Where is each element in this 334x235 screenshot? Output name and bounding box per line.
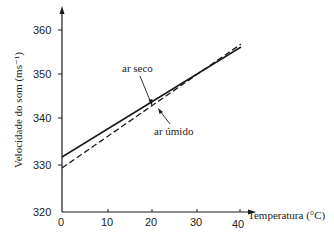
annotation-arrow-ar-umido bbox=[160, 111, 170, 124]
chart: 360 350 340 330 320 0 10 20 30 40 Temper… bbox=[0, 0, 334, 235]
y-tick-label: 340 bbox=[33, 112, 51, 124]
x-tick-label: 10 bbox=[101, 216, 113, 228]
y-axis-arrow-icon bbox=[60, 6, 65, 14]
annotation-ar-seco: ar seco bbox=[122, 62, 153, 74]
arrowhead-icon bbox=[149, 99, 153, 106]
x-tick-label: 0 bbox=[58, 216, 64, 228]
x-tick-label: 20 bbox=[145, 216, 157, 228]
y-tick-label: 320 bbox=[33, 206, 51, 218]
annotation-arrow-ar-seco bbox=[140, 76, 151, 103]
y-tick-label: 360 bbox=[33, 24, 51, 36]
y-axis-title: Velocidade do som (ms⁻¹) bbox=[12, 52, 25, 168]
arrowhead-icon bbox=[158, 108, 163, 114]
y-tick-label: 350 bbox=[33, 68, 51, 80]
x-axis-title: Temperatura (°C) bbox=[248, 209, 326, 222]
x-tick-label: 30 bbox=[190, 216, 202, 228]
annotation-ar-umido: ar úmido bbox=[154, 125, 194, 137]
x-tick-label: 40 bbox=[232, 218, 244, 230]
y-tick-label: 330 bbox=[33, 159, 51, 171]
